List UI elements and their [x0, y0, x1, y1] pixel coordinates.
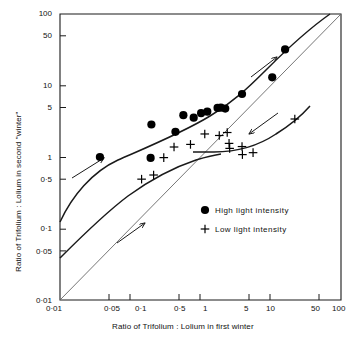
legend-marker-plus — [201, 225, 210, 234]
data-point — [268, 73, 276, 81]
data-point — [203, 108, 211, 116]
data-point — [190, 114, 198, 122]
data-point — [171, 128, 179, 136]
plot-canvas — [0, 0, 359, 339]
data-point — [221, 105, 229, 113]
data-point — [249, 148, 258, 157]
data-point — [215, 131, 224, 140]
series-low-light-intensity — [137, 115, 299, 184]
data-point — [238, 90, 246, 98]
legend-marker-filled-circle — [201, 206, 209, 214]
figure: Ratio of Trifolium : Lolium in second "w… — [0, 0, 359, 339]
data-point — [96, 153, 104, 161]
data-point — [147, 154, 155, 162]
data-point — [159, 153, 168, 162]
data-point — [200, 130, 209, 139]
data-point — [281, 45, 289, 53]
data-point — [186, 140, 195, 149]
fitted-curve-low-light-rising — [60, 154, 221, 258]
data-point — [223, 128, 232, 137]
data-point — [291, 115, 300, 124]
data-point — [238, 150, 247, 159]
data-point — [170, 143, 179, 152]
arrow-middle-left — [117, 223, 145, 243]
x-axis-ticks — [109, 294, 319, 300]
data-point — [147, 120, 155, 128]
arrow-down-right — [249, 113, 278, 134]
data-point — [179, 111, 187, 119]
data-point — [137, 175, 146, 184]
